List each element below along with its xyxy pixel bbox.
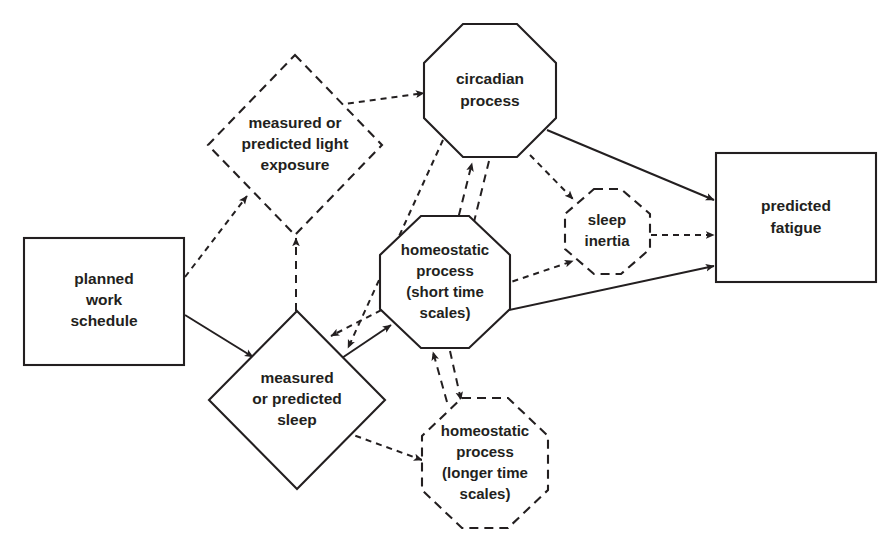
node-planned-work-schedule[interactable]: planned work schedule — [24, 238, 184, 365]
homeostatic-short-label-line4: scales) — [420, 304, 471, 321]
predicted-fatigue-label-line1: predicted — [761, 197, 831, 214]
edge-circadian-to-sleep-inertia — [530, 155, 573, 199]
light-exposure-label-line3: exposure — [261, 156, 330, 173]
edge-light-exposure-to-circadian — [337, 93, 424, 105]
homeostatic-short-label-line2: process — [416, 262, 474, 279]
predicted-fatigue-label-line2: fatigue — [771, 219, 822, 236]
homeostatic-long-label-line3: (longer time — [442, 464, 528, 481]
edge-homeostatic-short-to-homeostatic-long — [450, 351, 461, 400]
edge-circadian-to-predicted-fatigue — [547, 130, 714, 200]
edge-planned-work-to-light-exposure — [185, 196, 247, 277]
light-exposure-label-line2: predicted light — [242, 135, 349, 152]
edge-planned-work-to-measured-sleep — [185, 315, 253, 357]
diagram-canvas: planned work schedule measured or predic… — [0, 0, 889, 536]
homeostatic-long-label-line4: scales) — [460, 485, 511, 502]
planned-work-schedule-label-line3: schedule — [70, 312, 138, 329]
node-measured-sleep[interactable]: measured or predicted sleep — [209, 311, 385, 489]
node-predicted-fatigue[interactable]: predicted fatigue — [716, 153, 876, 282]
light-exposure-label-line1: measured or — [248, 114, 341, 131]
edge-homeostatic-long-to-homeostatic-short — [433, 352, 447, 402]
node-homeostatic-short[interactable]: homeostatic process (short time scales) — [380, 216, 510, 348]
homeostatic-long-label-line1: homeostatic — [441, 422, 529, 439]
circadian-process-label-line1: circadian — [456, 70, 524, 87]
homeostatic-short-label-line3: (short time — [406, 283, 484, 300]
circadian-process-label-line2: process — [460, 92, 519, 109]
planned-work-schedule-label-line1: planned — [74, 270, 133, 287]
node-circadian-process[interactable]: circadian process — [424, 24, 556, 157]
fatigue-model-diagram: planned work schedule measured or predic… — [0, 0, 889, 536]
homeostatic-short-label-line1: homeostatic — [401, 241, 489, 258]
measured-sleep-label-line2: or predicted — [252, 390, 342, 407]
edge-homeostatic-short-to-sleep-inertia — [502, 261, 573, 285]
planned-work-schedule-label-line2: work — [85, 291, 123, 308]
measured-sleep-label-line3: sleep — [277, 411, 317, 428]
node-homeostatic-long[interactable]: homeostatic process (longer time scales) — [422, 398, 548, 528]
node-sleep-inertia[interactable]: sleep inertia — [565, 189, 650, 274]
node-layer: planned work schedule measured or predic… — [24, 24, 876, 528]
edge-measured-sleep-to-homeostatic-long — [345, 432, 422, 460]
circadian-process-octagon — [424, 24, 556, 157]
measured-sleep-label-line1: measured — [260, 369, 333, 386]
sleep-inertia-label-line2: inertia — [584, 232, 630, 249]
predicted-fatigue-rect — [716, 153, 876, 282]
sleep-inertia-label-line1: sleep — [588, 211, 626, 228]
node-light-exposure[interactable]: measured or predicted light exposure — [208, 55, 382, 235]
homeostatic-long-label-line2: process — [456, 443, 514, 460]
